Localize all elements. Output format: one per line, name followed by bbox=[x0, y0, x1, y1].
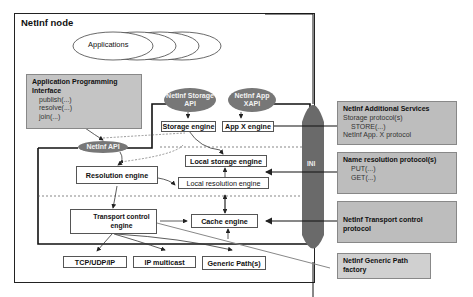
transport-control-protocol-box: NetInf Transport control protocol bbox=[337, 201, 457, 243]
transport-generic-paths: Generic Path(s) bbox=[202, 256, 266, 270]
app-x-engine: App X engine bbox=[222, 121, 274, 132]
transport-control-protocol-heading: NetInf Transport control protocol bbox=[343, 216, 451, 234]
storage-engine: Storage engine bbox=[161, 121, 216, 132]
api-box: Application Programming Interface publis… bbox=[26, 74, 142, 129]
generic-path-factory-heading: NetInf Generic Path factory bbox=[343, 257, 425, 275]
name-resolution-box: Name resolution protocol(s) PUT(...) GET… bbox=[337, 152, 457, 194]
put-line: PUT(...) bbox=[343, 165, 451, 174]
transport-ip-multicast: IP multicast bbox=[133, 256, 196, 268]
transport-control-engine: Transport control engine bbox=[70, 209, 157, 234]
local-storage-engine: Local storage engine bbox=[185, 155, 267, 167]
api-item-join: join(...) bbox=[32, 113, 136, 122]
generic-path-factory-box: NetInf Generic Path factory bbox=[337, 253, 431, 279]
get-line: GET(...) bbox=[343, 174, 451, 183]
local-resolution-engine: Local resolution engine bbox=[178, 177, 269, 189]
store-line: STORE(...) bbox=[343, 123, 451, 132]
transport-tcp-udp-ip: TCP/UDP/IP bbox=[63, 256, 127, 268]
ini-label: INI bbox=[307, 160, 315, 167]
api-item-resolve: resolve(...) bbox=[32, 104, 136, 113]
resolution-engine: Resolution engine bbox=[76, 166, 158, 184]
netinf-storage-api: NetInf Storage API bbox=[164, 88, 216, 112]
name-resolution-heading: Name resolution protocol(s) bbox=[343, 156, 451, 165]
applications-label: Applications bbox=[88, 40, 128, 49]
netinf-api: NetInf API bbox=[78, 141, 128, 153]
api-item-publish: publish(...) bbox=[32, 96, 136, 105]
netinf-app-x-api: NetInf App XAPI bbox=[228, 88, 276, 112]
storage-protocols-line: Storage protocol(s) bbox=[343, 114, 451, 123]
cache-engine: Cache engine bbox=[191, 214, 258, 228]
app-x-protocol-line: NetInf App. X protocol bbox=[343, 131, 451, 140]
api-box-heading: Application Programming Interface bbox=[32, 78, 136, 96]
additional-services-box: NetInf Additional Services Storage proto… bbox=[337, 101, 457, 145]
additional-services-heading: NetInf Additional Services bbox=[343, 105, 451, 114]
